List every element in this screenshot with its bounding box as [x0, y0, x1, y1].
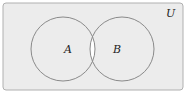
set-b-label: B: [112, 43, 121, 56]
set-a-label: A: [63, 43, 72, 56]
universe-label: U: [166, 7, 176, 20]
venn-diagram: U A B: [0, 0, 186, 102]
